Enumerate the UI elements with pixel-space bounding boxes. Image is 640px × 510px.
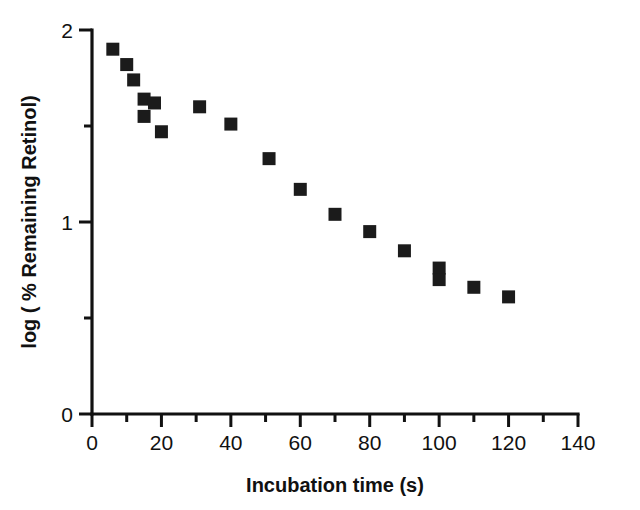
data-point [433,273,446,286]
y-tick-label: 2 [61,19,73,42]
retinol-decay-figure: 012 020406080100120140 Incubation time (… [0,0,640,510]
data-point [294,183,307,196]
data-point [263,152,276,165]
y-axis-ticks [79,30,92,414]
y-tick-label: 1 [61,211,73,234]
data-point [502,290,515,303]
data-point [106,43,119,56]
y-tick-label: 0 [61,403,73,426]
x-tick-label: 80 [358,431,381,454]
x-axis-tick-labels: 020406080100120140 [86,431,595,454]
data-point [467,281,480,294]
data-point [398,244,411,257]
data-point [224,118,237,131]
x-tick-label: 120 [491,431,526,454]
x-tick-label: 60 [289,431,312,454]
data-point [127,73,140,86]
x-tick-label: 20 [150,431,173,454]
x-tick-label: 0 [86,431,98,454]
x-tick-label: 100 [422,431,457,454]
x-axis-title: Incubation time (s) [246,474,424,496]
data-point [363,225,376,238]
data-point [138,110,151,123]
data-point [148,96,161,109]
scatter-plot: 012 020406080100120140 Incubation time (… [0,0,640,510]
x-tick-label: 40 [219,431,242,454]
y-axis-tick-labels: 012 [61,19,73,426]
x-tick-label: 140 [560,431,595,454]
data-point [329,208,342,221]
data-point-group [106,43,515,304]
axes-group [92,30,578,414]
data-point [155,125,168,138]
data-point [193,100,206,113]
y-axis-title: log ( % Remaining Retinol) [18,95,40,348]
x-axis-ticks [92,414,578,427]
data-point [433,262,446,275]
data-point [120,58,133,71]
